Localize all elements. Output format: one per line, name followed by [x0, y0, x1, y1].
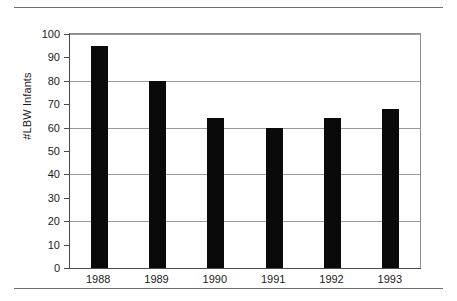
y-axis-label: 0: [30, 262, 60, 274]
y-axis-tick: [64, 221, 70, 222]
x-axis-label: 1990: [203, 273, 227, 285]
x-axis-label: 1992: [319, 273, 343, 285]
y-axis-tick: [64, 174, 70, 175]
x-axis-label: 1988: [86, 273, 110, 285]
gridline: [70, 174, 420, 175]
y-axis-tick: [64, 104, 70, 105]
x-axis-label: 1993: [378, 273, 402, 285]
bar: [266, 128, 283, 268]
bottom-horizontal-rule: [14, 288, 443, 289]
x-axis-label: 1991: [261, 273, 285, 285]
y-axis-tick: [64, 128, 70, 129]
y-axis-label: 10: [30, 239, 60, 251]
bar-chart-figure: #LBW Infants 0102030405060708090100 1988…: [0, 0, 457, 301]
y-axis-label: 100: [30, 28, 60, 40]
bar: [382, 109, 399, 268]
plot-area: 0102030405060708090100: [69, 33, 421, 268]
y-axis-label: 80: [30, 75, 60, 87]
plot-inner: 0102030405060708090100: [70, 34, 420, 268]
y-axis-tick: [64, 34, 70, 35]
bar: [324, 118, 341, 268]
y-axis-label: 60: [30, 122, 60, 134]
y-axis-tick: [64, 198, 70, 199]
bar: [91, 46, 108, 268]
y-axis-label: 30: [30, 192, 60, 204]
gridline: [70, 34, 420, 35]
y-axis-tick: [64, 151, 70, 152]
y-axis-label: 20: [30, 215, 60, 227]
gridline: [70, 128, 420, 129]
gridline: [70, 81, 420, 82]
top-horizontal-rule: [14, 7, 443, 8]
bar: [149, 81, 166, 268]
gridline: [70, 221, 420, 222]
y-axis-label: 50: [30, 145, 60, 157]
y-axis-label: 70: [30, 98, 60, 110]
y-axis-tick: [64, 245, 70, 246]
y-axis-label: 90: [30, 51, 60, 63]
y-axis-label: 40: [30, 168, 60, 180]
y-axis-tick: [64, 57, 70, 58]
bar: [207, 118, 224, 268]
y-axis-tick: [64, 81, 70, 82]
x-axis-label: 1989: [144, 273, 168, 285]
x-axis-line: [69, 268, 421, 269]
